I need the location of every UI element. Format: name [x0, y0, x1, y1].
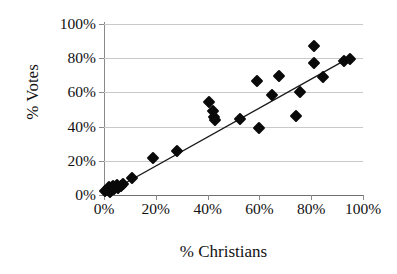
x-axis-line [103, 195, 364, 196]
y-tick-label: 80% [28, 50, 96, 66]
y-tick-label: 100% [28, 16, 96, 32]
x-axis-title: % Christians [0, 242, 397, 262]
x-tick-label: 100% [333, 201, 393, 217]
x-tick-mark [259, 195, 260, 200]
x-axis-title-text: % Christians [130, 242, 267, 262]
trend-line [104, 24, 363, 195]
plot-area [104, 24, 363, 195]
x-tick-mark [208, 195, 209, 200]
scatter-chart-figure: % Votes % Christians 0%20%40%60%80%100% … [0, 0, 397, 274]
x-tick-mark [363, 195, 364, 200]
y-tick-label: 20% [28, 153, 96, 169]
y-tick-label: 40% [28, 119, 96, 135]
x-tick-mark [311, 195, 312, 200]
x-tick-mark [156, 195, 157, 200]
y-tick-label: 60% [28, 84, 96, 100]
